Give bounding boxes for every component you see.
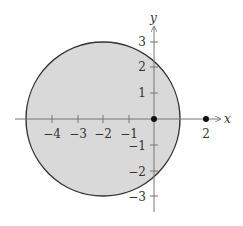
y-axis-label: y (149, 11, 157, 25)
x-tick-label: −4 (43, 127, 61, 141)
coordinate-plane: −4 −3 −2 −1 2 3 2 1 −1 −2 −3 x y (0, 0, 243, 226)
y-tick-label: 3 (138, 35, 146, 49)
point-origin (151, 116, 157, 122)
y-tick-label: 2 (138, 60, 146, 74)
y-tick-label: −3 (128, 190, 146, 204)
x-tick-label: −3 (69, 127, 87, 141)
y-tick-label: −1 (128, 139, 146, 153)
y-tick-label: −2 (128, 165, 146, 179)
y-tick-label: 1 (138, 86, 146, 100)
x-tick-label: 2 (202, 127, 210, 141)
point-x2 (203, 116, 209, 122)
x-axis-label: x (224, 112, 231, 126)
x-tick-label: −2 (94, 127, 112, 141)
